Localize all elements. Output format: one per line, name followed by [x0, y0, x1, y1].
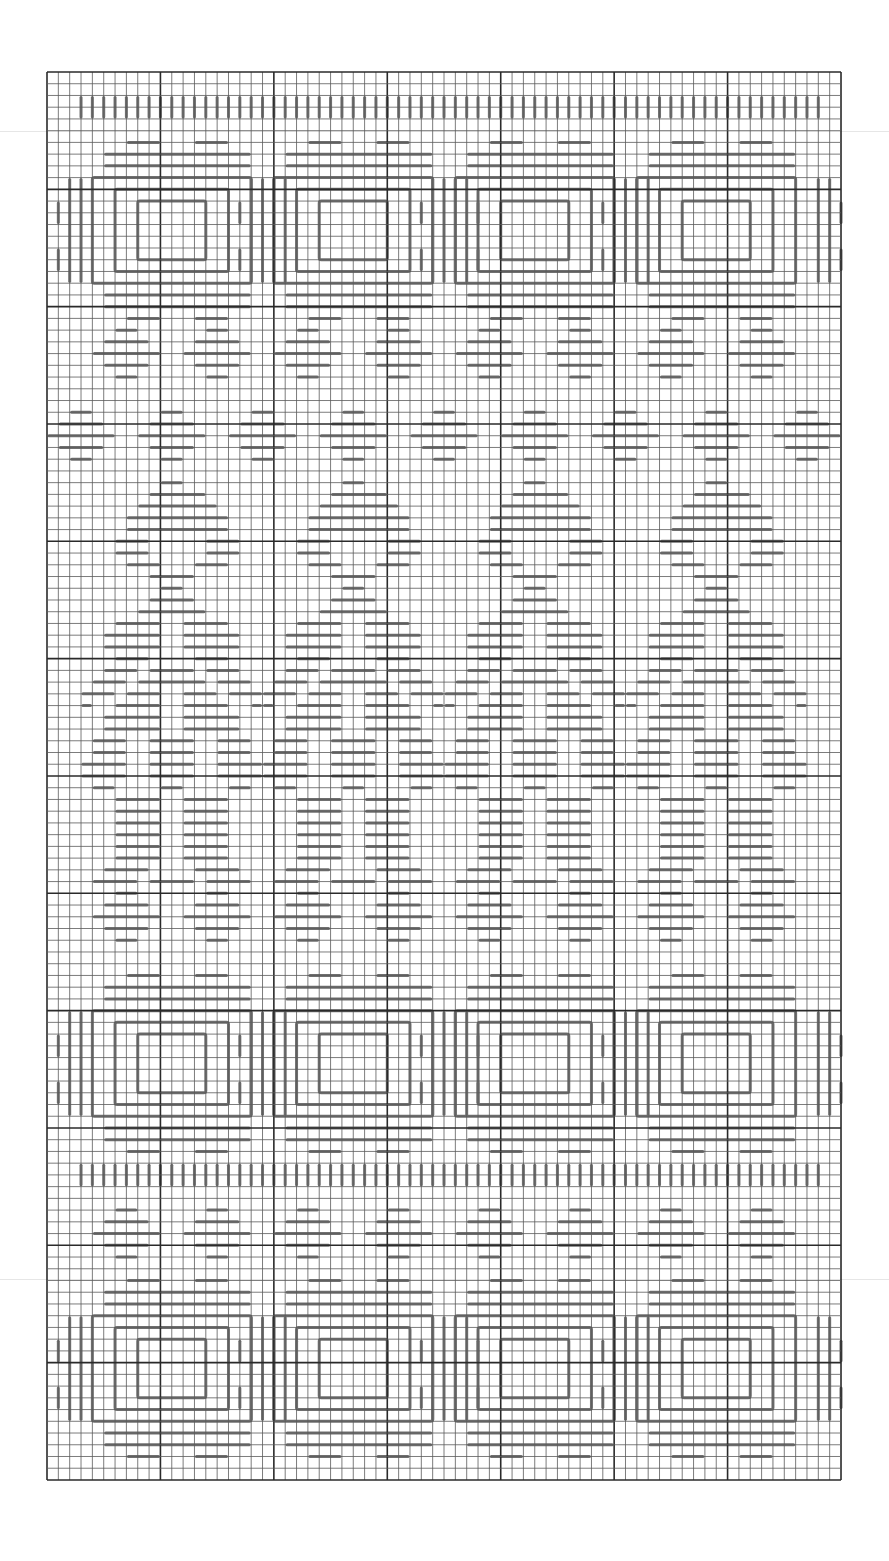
- stitch-layer: [49, 97, 841, 1456]
- chart-grid: [0, 0, 889, 1561]
- grid-layer: [47, 72, 841, 1480]
- stitch-chart: Bargello needlepoint stitch chart: [0, 0, 889, 1561]
